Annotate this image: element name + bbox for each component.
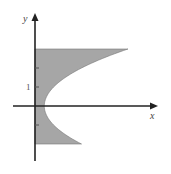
- x-axis-label: x: [149, 110, 155, 121]
- y-tick-label-1: 1: [26, 82, 31, 92]
- shaded-region: [35, 49, 128, 144]
- region-diagram: y x 1: [0, 0, 171, 174]
- y-axis-arrow-icon: [32, 13, 39, 21]
- y-axis-label: y: [22, 13, 28, 24]
- x-axis-arrow-icon: [150, 103, 158, 110]
